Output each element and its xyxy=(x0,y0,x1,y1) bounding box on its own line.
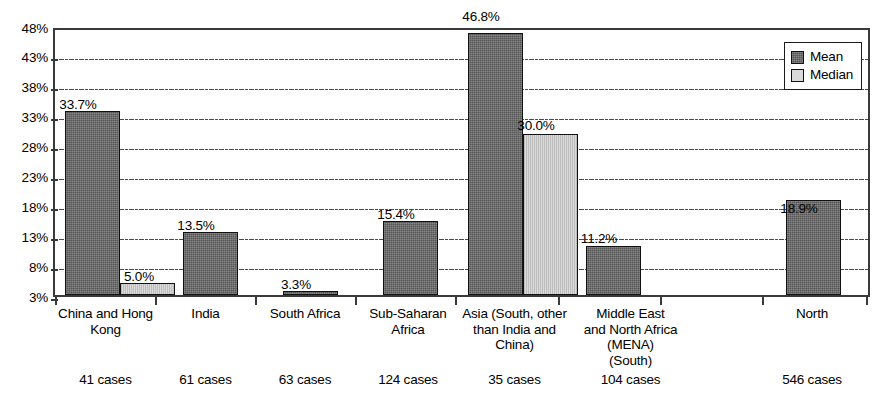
legend-item-median[interactable]: Median xyxy=(791,66,853,84)
category-line: Asia (South, other xyxy=(457,306,572,322)
x-axis-tick xyxy=(866,297,868,305)
bar-median-asia[interactable] xyxy=(523,134,578,295)
x-axis-category-label-sub-saharan-africa: Sub-Saharan Africa xyxy=(358,306,458,337)
x-axis-category-label-china: China and Hong Kong xyxy=(53,306,158,337)
x-axis-tick xyxy=(455,297,457,305)
gridline xyxy=(55,239,868,240)
y-axis-tick-label: 23% xyxy=(8,171,48,185)
cases-annotation-asia: 35 cases xyxy=(457,372,572,387)
bar-value-label-median-china: 5.0% xyxy=(104,270,174,284)
cases-annotation-mena: 104 cases xyxy=(573,372,688,387)
x-axis-category-label-india: India xyxy=(163,306,248,322)
bar-median-china[interactable] xyxy=(120,283,175,295)
gridline xyxy=(55,209,868,210)
x-axis-tick xyxy=(255,297,257,305)
bar-mean-sub-saharan-africa[interactable] xyxy=(383,221,438,295)
y-axis-tick xyxy=(51,239,58,241)
x-axis-tick xyxy=(762,297,764,305)
x-axis-tick xyxy=(660,297,662,305)
legend-swatch-mean-icon xyxy=(791,51,804,64)
category-line: (MENA) xyxy=(573,337,688,353)
category-line: Africa xyxy=(358,322,458,338)
bar-mean-china[interactable] xyxy=(65,111,120,295)
gridline xyxy=(55,119,868,120)
y-axis-tick-label: 18% xyxy=(8,201,48,215)
cases-annotation-india: 61 cases xyxy=(163,372,248,387)
legend-swatch-median-icon xyxy=(791,69,804,82)
category-line: Middle East xyxy=(573,306,688,322)
bar-value-label-mean-mena: 11.2% xyxy=(559,232,639,246)
legend: Mean Median xyxy=(784,42,862,90)
category-line: Kong xyxy=(53,322,158,338)
y-axis-tick-label: 3% xyxy=(8,291,48,305)
category-line: China) xyxy=(457,337,572,353)
category-line: China and Hong xyxy=(53,306,158,322)
bar-value-label-median-asia: 30.0% xyxy=(496,119,576,133)
cases-annotation-sub-saharan: 124 cases xyxy=(358,372,458,387)
category-line: North xyxy=(762,306,862,322)
category-line: than India and xyxy=(457,322,572,338)
bar-value-label-mean-india: 13.5% xyxy=(156,219,236,233)
x-axis-tick xyxy=(558,297,560,305)
gridline xyxy=(55,149,868,150)
bar-value-label-mean-north: 18.9% xyxy=(759,202,839,216)
y-axis-tick xyxy=(51,269,58,271)
gridline xyxy=(55,89,868,90)
bar-mean-asia[interactable] xyxy=(468,33,523,295)
x-axis-category-label-south-africa: South Africa xyxy=(255,306,355,322)
x-axis-tick xyxy=(155,297,157,305)
y-axis-tick xyxy=(51,149,58,151)
y-axis-tick-label: 38% xyxy=(8,81,48,95)
bar-mean-mena[interactable] xyxy=(586,246,641,295)
y-axis-tick xyxy=(51,59,58,61)
y-axis-tick-label: 43% xyxy=(8,51,48,65)
cases-annotation-china: 41 cases xyxy=(53,372,158,387)
y-axis-tick-label: 8% xyxy=(8,261,48,275)
category-line: South Africa xyxy=(255,306,355,322)
category-line: (South) xyxy=(573,353,688,369)
gridline xyxy=(55,179,868,180)
x-axis-category-label-mena: Middle East and North Africa (MENA) (Sou… xyxy=(573,306,688,368)
cases-annotation-north: 546 cases xyxy=(762,372,862,387)
x-axis-tick xyxy=(55,297,57,305)
bar-value-label-mean-south-africa: 3.3% xyxy=(256,278,336,292)
cases-annotation-south-africa: 63 cases xyxy=(255,372,355,387)
y-axis-tick-label: 33% xyxy=(8,111,48,125)
category-line: Sub-Saharan xyxy=(358,306,458,322)
x-axis-category-label-north: North xyxy=(762,306,862,322)
x-axis-category-label-asia: Asia (South, other than India and China) xyxy=(457,306,572,353)
category-line: and North Africa xyxy=(573,322,688,338)
legend-item-mean[interactable]: Mean xyxy=(791,48,853,66)
y-axis-tick-label: 13% xyxy=(8,231,48,245)
bar-chart: 48% 43% 38% 33% 28% 23% 18% 13% 8% 3% xyxy=(0,0,896,414)
category-line: India xyxy=(163,306,248,322)
gridline xyxy=(55,269,868,270)
plot-area: Mean Median xyxy=(53,28,870,297)
x-axis-tick xyxy=(355,297,357,305)
bar-value-label-mean-asia: 46.8% xyxy=(441,10,521,24)
bar-value-label-mean-china: 33.7% xyxy=(38,98,118,112)
legend-label-median: Median xyxy=(810,68,853,82)
y-axis-tick-label: 48% xyxy=(8,22,48,36)
y-axis-tick xyxy=(51,209,58,211)
bar-value-label-mean-sub-saharan: 15.4% xyxy=(356,208,436,222)
gridline xyxy=(55,59,868,60)
y-axis-tick xyxy=(51,89,58,91)
legend-label-mean: Mean xyxy=(810,50,843,64)
y-axis-tick xyxy=(51,179,58,181)
y-axis-tick xyxy=(51,119,58,121)
y-axis-tick-label: 28% xyxy=(8,141,48,155)
bar-mean-india[interactable] xyxy=(183,232,238,295)
